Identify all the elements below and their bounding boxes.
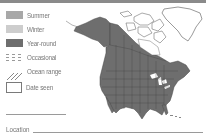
notes-blank-line[interactable] (6, 114, 66, 115)
winter-swatch-icon (6, 25, 23, 33)
greenland-outline (162, 7, 202, 41)
legend-label: Year-round (27, 39, 56, 48)
date-seen-box-icon[interactable] (6, 82, 22, 93)
legend-label: Occasional (27, 53, 56, 62)
top-border-bar (0, 0, 206, 3)
alaska-range (74, 17, 110, 47)
legend-label: Ocean range (27, 67, 61, 76)
legend-item-winter: Winter (6, 24, 49, 34)
caribbean-islands (170, 115, 181, 118)
legend-label: Winter (27, 25, 44, 34)
legend-item-year-round: Year-round (6, 38, 64, 48)
legend-item-date-seen: Date seen (6, 81, 61, 93)
location-input-line[interactable] (33, 132, 203, 133)
legend-item-summer: Summer (6, 10, 56, 20)
legend-label: Date seen (26, 83, 53, 92)
legend-item-ocean-range: Ocean range (6, 66, 71, 76)
occasional-dashed-icon (6, 53, 23, 61)
ocean-range-hatch-icon (6, 67, 23, 75)
location-label: Location (6, 125, 27, 134)
north-america-range-map (66, 5, 206, 123)
summer-swatch-icon (6, 11, 23, 19)
legend-label: Summer (27, 11, 50, 20)
location-field[interactable]: Location (6, 125, 203, 134)
legend-item-occasional: Occasional (6, 52, 65, 62)
year-round-swatch-icon (6, 39, 23, 47)
